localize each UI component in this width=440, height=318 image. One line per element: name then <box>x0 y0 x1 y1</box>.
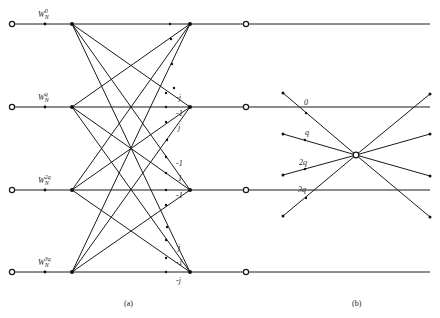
exponent-label-3q: 3q <box>297 185 306 194</box>
input-node <box>9 21 14 26</box>
butterfly-branches <box>72 24 190 272</box>
branch-label: -1 <box>176 258 183 267</box>
branch-label: 1 <box>178 174 182 183</box>
branch-label: j <box>177 243 181 252</box>
row-lines <box>12 24 430 272</box>
input-twiddle-labels: WN0 WNq WN2q WN3q <box>38 8 51 268</box>
exponent-label-q: q <box>305 128 309 137</box>
input-node <box>9 187 14 192</box>
output-node <box>243 104 248 109</box>
input-node <box>9 104 14 109</box>
arrow-markers <box>165 23 175 273</box>
center-node <box>353 152 359 158</box>
caption-b: (b) <box>352 299 362 308</box>
diagram-b: 0 q 2q 3q (b) <box>282 92 432 309</box>
twiddle-label-q: WNq <box>38 91 50 103</box>
input-exponent-labels: 0 q 2q 3q <box>297 98 309 194</box>
branch-label: j <box>177 123 181 132</box>
twiddle-dots <box>44 23 47 274</box>
branch-label: -1 <box>176 191 183 200</box>
branch-label: -1 <box>176 159 183 168</box>
input-node <box>9 269 14 274</box>
branch-label: -j <box>176 93 182 102</box>
exponent-label-0: 0 <box>304 98 308 107</box>
output-node <box>243 187 248 192</box>
output-node <box>243 21 248 26</box>
output-node <box>243 269 248 274</box>
input-nodes <box>9 21 14 274</box>
branch-label: -j <box>176 276 182 285</box>
exponent-label-2q: 2q <box>299 158 307 167</box>
twiddle-label-2q: WN2q <box>38 174 51 186</box>
output-nodes <box>243 21 248 274</box>
twiddle-label-3q: WN3q <box>38 256 51 268</box>
branch-label: -1 <box>176 109 183 118</box>
twiddle-label-0: WN0 <box>38 8 50 20</box>
radix4-butterfly-figure: WN0 WNq WN2q WN3q -j -1 j -1 1 -1 j -1 -… <box>0 0 440 318</box>
caption-a: (a) <box>124 299 133 308</box>
